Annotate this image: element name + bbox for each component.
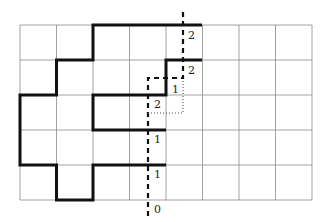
height-label: 1 <box>154 169 161 180</box>
lattice-path-diagram <box>0 0 325 222</box>
height-label: 2 <box>188 30 195 41</box>
height-label: 1 <box>154 134 161 145</box>
dashed-path <box>148 12 183 216</box>
height-label: 2 <box>154 99 161 110</box>
height-label: 2 <box>188 65 195 76</box>
height-label: 1 <box>172 84 179 95</box>
thick-boundary-path <box>20 25 202 200</box>
height-label: 0 <box>154 204 161 215</box>
